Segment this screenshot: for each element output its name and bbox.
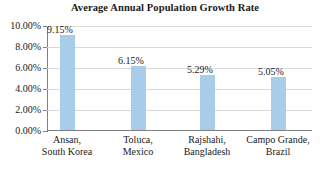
bar-value-ansan: 9.15%	[30, 24, 90, 35]
category-line-1: Campo Grande,	[235, 134, 321, 146]
bar-value-toluca: 6.15%	[101, 55, 161, 66]
category-label-campo-grande: Campo Grande, Brazil	[235, 134, 321, 157]
bar-campo-grande[interactable]	[271, 77, 286, 130]
bar-rajshahi[interactable]	[200, 75, 215, 130]
chart-title: Average Annual Population Growth Rate	[0, 2, 330, 13]
bar-toluca[interactable]	[131, 66, 146, 130]
bar-chart-figure: Average Annual Population Growth Rate 10…	[0, 0, 330, 173]
y-axis-label-8: 8.00%	[0, 41, 41, 52]
plot-area	[47, 26, 312, 131]
bar-ansan[interactable]	[60, 35, 75, 130]
x-axis-baseline	[47, 130, 312, 131]
y-axis-label-6: 6.00%	[0, 62, 41, 73]
bar-value-campo-grande: 5.05%	[241, 66, 301, 77]
y-axis-label-4: 4.00%	[0, 83, 41, 94]
category-line-2: Brazil	[235, 146, 321, 158]
gridline-8	[47, 47, 312, 48]
y-axis-label-2: 2.00%	[0, 104, 41, 115]
bar-value-rajshahi: 5.29%	[170, 64, 230, 75]
